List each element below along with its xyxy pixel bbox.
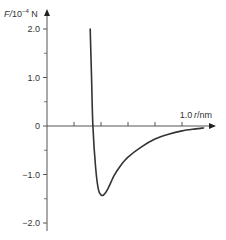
y-tick-label: 0: [35, 121, 40, 131]
chart-container: 2.01.00−1.0−2.01.0r/nmF/10−4 N: [0, 0, 226, 240]
force-distance-chart: 2.01.00−1.0−2.01.0r/nmF/10−4 N: [0, 0, 226, 240]
x-axis-arrow-icon: [209, 123, 216, 129]
x-tick-label: 1.0: [180, 110, 193, 120]
y-axis-label: F/10−4 N: [4, 8, 38, 19]
y-axis-arrow-icon: [44, 9, 50, 16]
y-tick-label: 2.0: [27, 24, 40, 34]
y-tick-label: −2.0: [22, 218, 40, 228]
y-tick-label: 1.0: [27, 73, 40, 83]
x-axis-label: r/nm: [194, 110, 212, 120]
y-tick-label: −1.0: [22, 170, 40, 180]
